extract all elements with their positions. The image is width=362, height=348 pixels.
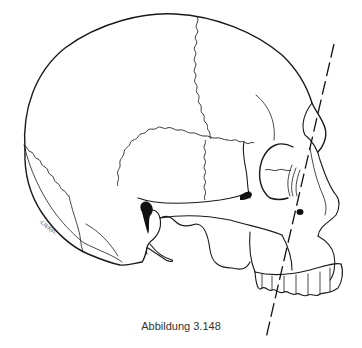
skull-illustration: [0, 0, 362, 348]
tooth-dividers: [262, 268, 330, 295]
pterion-mark: [240, 192, 252, 200]
orbit-inner-shading: [288, 165, 300, 196]
zygomatic-arch-lower: [160, 216, 282, 235]
orbit-outline: [260, 144, 293, 200]
pterygoid-plate: [160, 216, 250, 269]
frontosphenoid-suture: [228, 140, 254, 144]
squamosal-suture: [117, 127, 228, 186]
ear-canal: [140, 202, 152, 234]
sphenoid-suture: [204, 140, 206, 200]
cranium-outline: [25, 14, 326, 152]
zygomatic-arch-upper: [138, 192, 250, 204]
figure-caption: Abbildung 3.148: [0, 320, 362, 332]
occipital-inner-line: [24, 145, 122, 262]
nasal-aperture: [318, 236, 335, 280]
coronal-suture: [194, 17, 211, 139]
nasal-profile: [303, 103, 339, 236]
infraorbital-foramen: [297, 209, 304, 215]
orbit-floor-suture: [265, 169, 291, 170]
maxilla-frontal-process: [310, 148, 326, 215]
alveolar-line: [255, 263, 341, 274]
lambdoid-suture: [24, 145, 69, 196]
styloid-process: [148, 244, 173, 262]
temporal-line: [256, 95, 274, 140]
greater-wing-sphenoid: [243, 142, 250, 198]
upper-teeth: [255, 264, 342, 296]
occipital-outline: [25, 150, 147, 265]
